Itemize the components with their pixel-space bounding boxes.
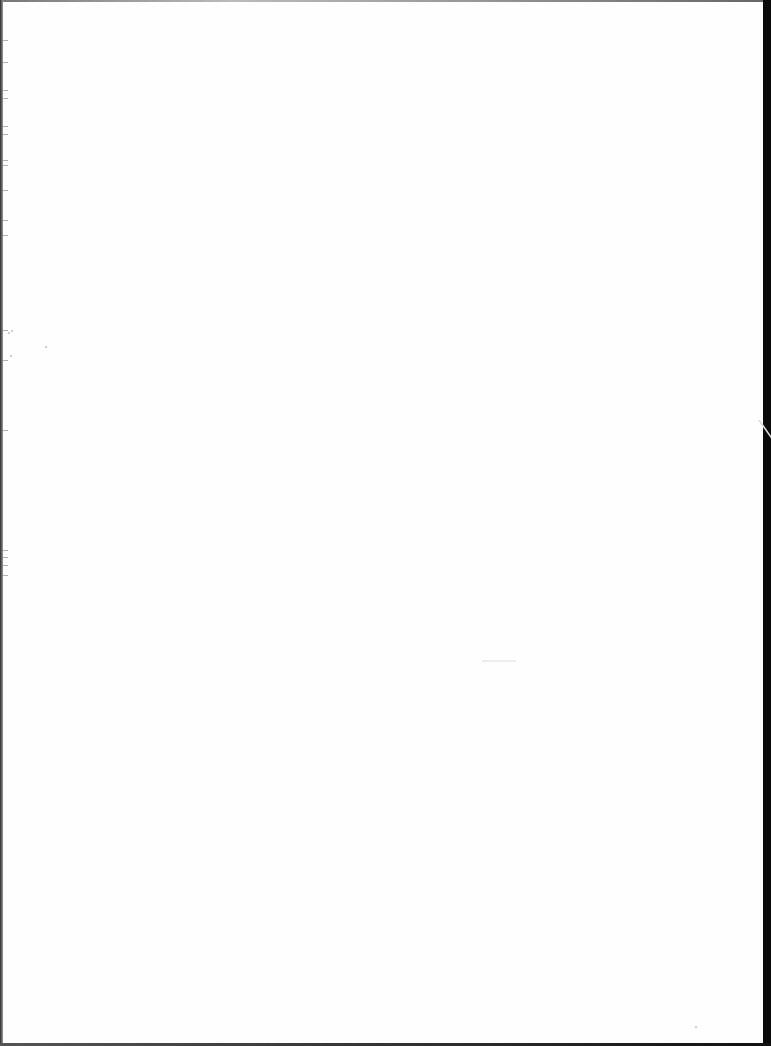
scan-smudge bbox=[482, 660, 516, 662]
scan-speck bbox=[11, 330, 13, 332]
blank-page bbox=[3, 2, 763, 1043]
scan-speck bbox=[10, 355, 12, 357]
scanned-page-canvas bbox=[0, 0, 771, 1046]
binding-marks bbox=[3, 30, 9, 630]
scan-edge-right bbox=[763, 0, 771, 1046]
scan-edge-top bbox=[0, 0, 771, 2]
scan-speck bbox=[695, 1026, 697, 1028]
scan-speck bbox=[8, 332, 10, 334]
scan-speck bbox=[45, 346, 47, 348]
